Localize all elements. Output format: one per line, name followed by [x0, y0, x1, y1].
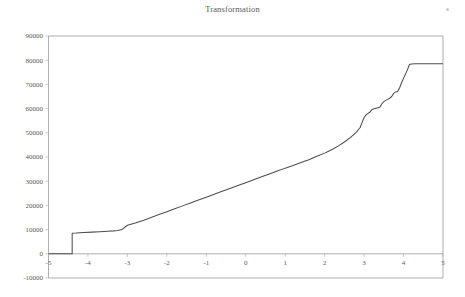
plot-frame: [49, 36, 444, 278]
y-tick-label: 0: [40, 250, 44, 258]
x-tick-label: 5: [441, 259, 445, 267]
x-tick-label: 1: [283, 259, 287, 267]
x-tick-label: 0: [244, 259, 248, 267]
y-tick-label: 80000: [26, 57, 44, 65]
y-tick-label: 60000: [26, 105, 44, 113]
x-tick-label: -2: [164, 259, 170, 267]
y-axis-ticks: -100000100002000030000400005000060000700…: [23, 32, 48, 282]
chart-container: Transformation -100000100002000030000400…: [0, 0, 465, 297]
data-series-line: [49, 64, 444, 254]
y-tick-label: 70000: [26, 81, 44, 89]
x-tick-label: 2: [323, 259, 327, 267]
x-tick-label: 4: [402, 259, 406, 267]
x-tick-label: -1: [203, 259, 209, 267]
y-tick-label: 50000: [26, 129, 44, 137]
y-tick-label: 30000: [26, 178, 44, 186]
x-tick-label: -5: [46, 259, 52, 267]
data-series-group: [49, 64, 444, 254]
y-tick-label: 10000: [26, 226, 44, 234]
x-tick-label: -4: [85, 259, 91, 267]
plot-area: -100000100002000030000400005000060000700…: [0, 0, 465, 297]
y-tick-label: 20000: [26, 202, 44, 210]
y-tick-label: 90000: [26, 32, 44, 40]
x-tick-label: -3: [124, 259, 130, 267]
x-axis-ticks: -5-4-3-2-1012345: [46, 254, 446, 267]
y-tick-label: -10000: [23, 274, 43, 282]
y-tick-label: 40000: [26, 153, 44, 161]
x-tick-label: 3: [362, 259, 366, 267]
